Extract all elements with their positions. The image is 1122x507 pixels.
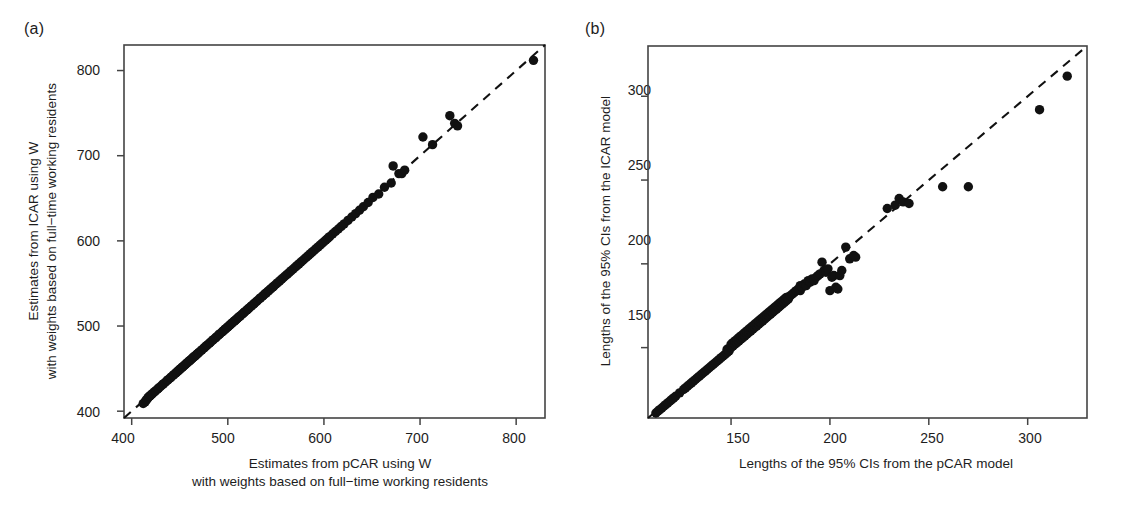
data-point (1035, 105, 1044, 114)
data-point (904, 199, 913, 208)
data-point (418, 132, 427, 141)
data-point (1063, 71, 1072, 80)
data-point (837, 266, 846, 275)
data-point (387, 178, 396, 187)
data-point (400, 165, 409, 174)
scatter-series (651, 71, 1072, 417)
data-point (529, 56, 538, 65)
data-point (964, 182, 973, 191)
data-point (453, 121, 462, 130)
data-point (851, 252, 860, 261)
data-point (428, 140, 437, 149)
data-point (938, 182, 947, 191)
panel-b-plot-area (561, 0, 1122, 507)
panel-a-plot-area (0, 0, 561, 507)
data-point (388, 161, 397, 170)
data-point (833, 284, 842, 293)
figure-root: (a) Estimates from ICAR using W with wei… (0, 0, 1122, 507)
data-point (841, 242, 850, 251)
scatter-series (139, 56, 539, 409)
panel-a: (a) Estimates from ICAR using W with wei… (0, 0, 561, 507)
panel-b: (b) Lengths of the 95% CIs from the ICAR… (561, 0, 1122, 507)
